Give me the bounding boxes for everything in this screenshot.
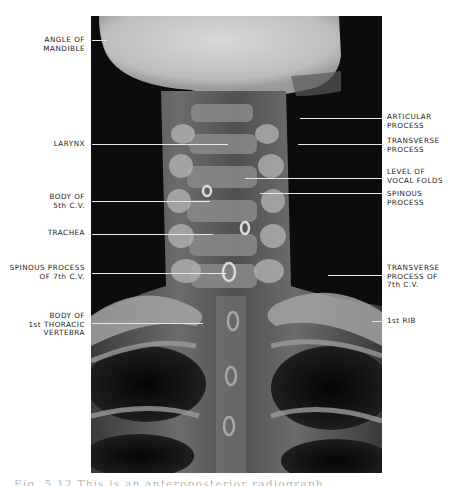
label-body-of-5th-cv: BODY OF 5th C.V. [49,193,85,210]
label-trachea: TRACHEA [48,229,85,238]
label-transverse-process-7th-cv: TRANSVERSE PROCESS OF 7th C.V. [387,264,440,290]
leader-line-1st-rib [372,321,382,322]
leader-line-spinous-process [260,193,382,194]
figure-caption: Fig. 5.12 This is an anteroposterior rad… [14,478,324,486]
leader-line-angle-of-mandible [92,40,107,41]
label-1st-rib: 1st RIB [387,317,416,326]
label-body-of-1st-thoracic-vertebra: BODY OF 1st THORACIC VERTEBRA [28,312,85,338]
leader-line-spinous-process-7th-cv [92,273,226,274]
leader-line-transverse-process [298,144,382,145]
label-spinous-process: SPINOUS PROCESS [387,190,424,207]
leader-line-body-of-5th-cv [92,201,210,202]
leader-line-trachea [92,234,213,235]
label-angle-of-mandible: ANGLE OF MANDIBLE [43,36,85,53]
label-transverse-process: TRANSVERSE PROCESS [387,137,440,154]
leader-line-articular-process [300,118,382,119]
label-level-of-vocal-folds: LEVEL OF VOCAL FOLDS [387,168,443,185]
label-larynx: LARYNX [54,140,85,149]
leader-line-transverse-process-7th-cv [328,275,382,276]
radiograph-image [91,16,382,473]
label-spinous-process-7th-cv: SPINOUS PROCESS OF 7th C.V. [10,264,85,281]
leader-line-larynx [92,144,228,145]
leader-line-level-of-vocal-folds [245,178,382,179]
label-articular-process: ARTICULAR PROCESS [387,113,432,130]
leader-line-body-of-1st-thoracic-vertebra [92,323,203,324]
cervical-spine-radiograph [91,16,382,473]
